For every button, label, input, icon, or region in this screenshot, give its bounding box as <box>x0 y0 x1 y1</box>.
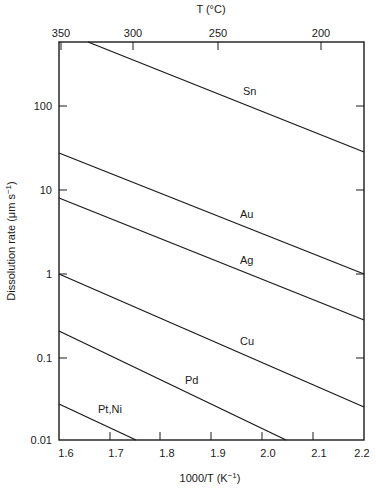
series-labels: Sn Au Ag Cu Pd Pt,Ni <box>98 85 256 415</box>
svg-text:1.8: 1.8 <box>159 447 174 459</box>
svg-text:1.9: 1.9 <box>210 447 225 459</box>
y-axis-ticks <box>59 106 364 358</box>
label-ag: Ag <box>240 254 253 266</box>
svg-text:0.1: 0.1 <box>37 352 52 364</box>
series-lines <box>59 42 364 440</box>
svg-text:1.7: 1.7 <box>108 447 123 459</box>
svg-text:0.01: 0.01 <box>31 434 52 446</box>
y-axis-tick-labels: 0.01 0.1 1 10 100 <box>31 100 52 446</box>
top-axis-title: T (°C) <box>196 3 225 15</box>
label-pd: Pd <box>185 374 198 386</box>
x-axis-title: 1000/T (K−1) <box>180 471 241 484</box>
line-sn <box>88 42 364 152</box>
label-ptni: Pt,Ni <box>98 403 122 415</box>
line-au <box>59 153 364 274</box>
top-axis-ticks <box>61 42 321 50</box>
svg-text:300: 300 <box>124 27 142 39</box>
label-cu: Cu <box>240 335 254 347</box>
svg-text:1.6: 1.6 <box>58 447 73 459</box>
y-axis-title: Dissolution rate (μm s−1) <box>4 181 17 300</box>
line-ag <box>59 198 364 320</box>
label-au: Au <box>240 208 253 220</box>
x-axis-tick-labels: 1.6 1.7 1.8 1.9 2.0 2.1 2.2 <box>58 447 369 459</box>
svg-text:350: 350 <box>52 27 70 39</box>
svg-text:10: 10 <box>40 184 52 196</box>
svg-text:1: 1 <box>46 268 52 280</box>
top-axis-tick-labels: 350 300 250 200 <box>52 27 330 39</box>
svg-text:2.0: 2.0 <box>260 447 275 459</box>
line-cu <box>59 274 364 407</box>
svg-text:100: 100 <box>34 100 52 112</box>
svg-text:250: 250 <box>209 27 227 39</box>
line-pd <box>59 331 286 440</box>
svg-text:2.1: 2.1 <box>311 447 326 459</box>
plot-frame <box>59 42 364 440</box>
chart: T (°C) 350 300 250 200 0.01 0.1 1 10 100… <box>0 0 376 493</box>
label-sn: Sn <box>243 85 256 97</box>
svg-text:2.2: 2.2 <box>354 447 369 459</box>
svg-text:200: 200 <box>312 27 330 39</box>
